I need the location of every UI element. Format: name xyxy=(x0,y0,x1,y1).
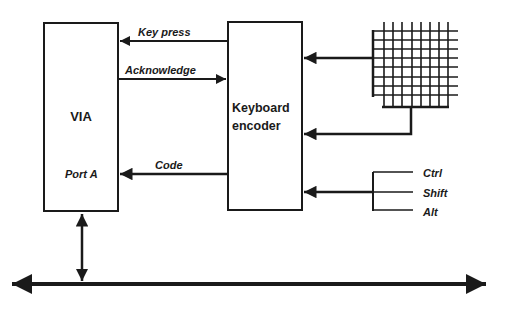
encoder-label-line1: Keyboard xyxy=(232,101,290,115)
shift-label: Shift xyxy=(423,187,449,199)
key-matrix xyxy=(373,22,458,107)
keyboard-interface-diagram: VIA Port A Keyboard encoder Key press Ac… xyxy=(0,0,508,312)
modifier-keys: Ctrl Shift Alt xyxy=(304,167,449,218)
alt-label: Alt xyxy=(422,206,439,218)
key-press-signal: Key press xyxy=(120,26,228,41)
port-a-label: Port A xyxy=(65,168,98,180)
keyboard-encoder-block: Keyboard encoder xyxy=(228,22,302,210)
acknowledge-signal: Acknowledge xyxy=(118,64,226,79)
code-signal: Code xyxy=(120,159,228,174)
encoder-label-line2: encoder xyxy=(232,119,281,133)
matrix-column-bus xyxy=(304,107,411,134)
ctrl-label: Ctrl xyxy=(423,167,443,179)
key-press-label: Key press xyxy=(138,26,191,38)
via-label: VIA xyxy=(70,109,92,124)
via-block: VIA Port A xyxy=(44,23,118,211)
code-label: Code xyxy=(155,159,183,171)
acknowledge-label: Acknowledge xyxy=(124,64,196,76)
